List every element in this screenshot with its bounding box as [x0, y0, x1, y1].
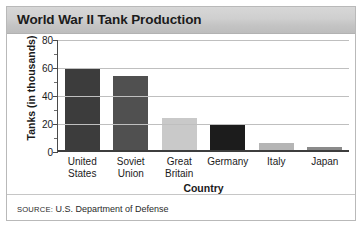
chart-figure: World War II Tank Production Tanks (in t… — [6, 6, 356, 221]
x-tick-label-line: Britain — [155, 168, 204, 180]
bar-series — [58, 40, 349, 150]
gridline — [58, 124, 349, 125]
y-tick-label: 60 — [29, 63, 53, 74]
y-minor-tick-mark — [54, 54, 57, 55]
x-tick-label: UnitedStates — [58, 156, 107, 179]
x-tick-label: Japan — [301, 156, 350, 179]
y-tick-mark — [53, 152, 58, 153]
x-tick-label: SovietUnion — [107, 156, 156, 179]
y-tick-label: 40 — [29, 91, 53, 102]
x-tick-label-line: Soviet — [107, 156, 156, 168]
y-tick-label: 20 — [29, 119, 53, 130]
x-axis-title: Country — [58, 182, 349, 194]
y-tick-mark — [53, 40, 58, 41]
plot-canvas — [58, 40, 349, 152]
gridline — [58, 40, 349, 41]
x-tick-label: GreatBritain — [155, 156, 204, 179]
y-minor-tick-mark — [54, 82, 57, 83]
x-tick-label: Germany — [204, 156, 253, 179]
gridline — [58, 96, 349, 97]
bar-italy — [259, 143, 294, 150]
bar-slot — [252, 40, 301, 150]
bar-germany — [210, 125, 245, 150]
y-tick-label: 0 — [29, 147, 53, 158]
y-axis-tick-labels: 020406080 — [29, 34, 53, 152]
x-axis-tick-labels: UnitedStatesSovietUnionGreatBritainGerma… — [58, 156, 349, 179]
x-tick-label-line: States — [58, 168, 107, 180]
y-tick-label: 80 — [29, 35, 53, 46]
x-axis-line — [58, 150, 349, 152]
source-value: U.S. Department of Defense — [53, 204, 169, 214]
y-tick-mark — [53, 68, 58, 69]
source-divider — [7, 194, 355, 195]
title-band: World War II Tank Production — [7, 7, 355, 34]
gridline — [58, 68, 349, 69]
y-minor-tick-mark — [54, 110, 57, 111]
x-tick-label: Italy — [252, 156, 301, 179]
bar-slot — [107, 40, 156, 150]
x-tick-label-line: Germany — [204, 156, 253, 168]
x-tick-label-line: United — [58, 156, 107, 168]
bar-soviet-union — [113, 76, 148, 150]
y-tick-mark — [53, 96, 58, 97]
source-label: SOURCE: — [17, 205, 53, 214]
source-note: SOURCE: U.S. Department of Defense — [17, 204, 169, 214]
y-minor-tick-mark — [54, 138, 57, 139]
bar-slot — [301, 40, 350, 150]
page-title: World War II Tank Production — [17, 12, 201, 27]
bar-slot — [204, 40, 253, 150]
x-tick-label-line: Great — [155, 156, 204, 168]
x-tick-label-line: Japan — [301, 156, 350, 168]
y-tick-mark — [53, 124, 58, 125]
x-tick-label-line: Union — [107, 168, 156, 180]
bar-united-states — [65, 68, 100, 151]
bar-slot — [155, 40, 204, 150]
x-tick-label-line: Italy — [252, 156, 301, 168]
bar-japan — [307, 147, 342, 150]
bar-slot — [58, 40, 107, 150]
